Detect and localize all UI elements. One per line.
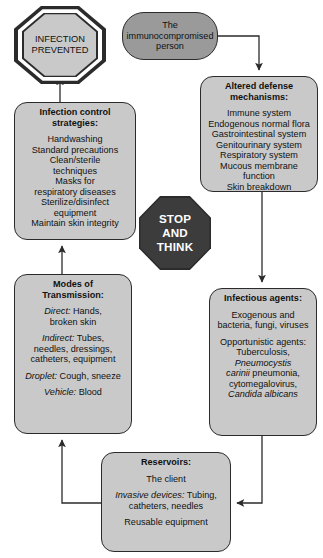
node-stop-and-think[interactable]: STOP AND THINK [137, 194, 213, 272]
reservoirs-header: Reservoirs: [105, 457, 227, 468]
node-infection-prevented[interactable]: INFECTION PREVENTED [14, 6, 106, 84]
stop-line-2: AND [162, 226, 188, 240]
modes-entry-droplet: Droplet: Cough, sneeze [18, 371, 128, 382]
edge-immuno-to-altered [218, 36, 259, 70]
node-infection-control-strategies[interactable]: Infection control strategies: Handwashin… [14, 102, 136, 240]
reservoirs-invasive-text: Tubing, [184, 490, 216, 500]
control-item: equipment [18, 208, 132, 219]
stop-line-1: STOP [159, 212, 191, 226]
node-infectious-agents[interactable]: Infectious agents: Exogenous and bacteri… [209, 288, 317, 436]
control-item: Sterilize/disinfect [18, 197, 132, 208]
modes-label-droplet: Droplet: [25, 371, 57, 381]
reservoirs-client: The client [105, 474, 227, 485]
modes-cont-direct: broken skin [18, 317, 128, 328]
agents-pneumonia: pneumonia, [250, 368, 300, 378]
infection-prevented-label: INFECTION PREVENTED [14, 6, 106, 84]
node-modes-of-transmission[interactable]: Modes of Transmission: Direct: Hands, br… [14, 274, 132, 434]
control-item: Masks for [18, 176, 132, 187]
edge-agents-to-reservoirs [237, 436, 262, 503]
diagram-canvas: INFECTION PREVENTED STOP AND THINK The i… [0, 0, 323, 558]
altered-item: function [204, 171, 314, 182]
agents-pneumocystis: Pneumocystis [213, 358, 313, 369]
control-item: techniques [18, 166, 132, 177]
agents-opportunistic-intro: Opportunistic agents: [213, 337, 313, 348]
control-item: Handwashing [18, 134, 132, 145]
control-item: Standard precautions [18, 145, 132, 156]
altered-item: Genitourinary system [204, 140, 314, 151]
altered-item: Endogenous normal flora [204, 119, 314, 130]
altered-item: Immune system [204, 108, 314, 119]
stop-and-think-label: STOP AND THINK [137, 194, 213, 272]
altered-header-2: mechanisms: [204, 92, 314, 103]
agents-carinii: carinii [226, 368, 250, 378]
reservoirs-invasive-label: Invasive devices: [115, 490, 184, 500]
control-header-1: Infection control [18, 107, 132, 118]
modes-header-1: Modes of [18, 279, 128, 290]
modes-text-vehicle: Blood [76, 387, 102, 397]
control-item: Maintain skin integrity [18, 218, 132, 229]
immuno-line-3: person [127, 41, 214, 52]
modes-entry-direct: Direct: Hands, [18, 306, 128, 317]
altered-item: Gastrointestinal system [204, 129, 314, 140]
infection-prevented-line-1: INFECTION [35, 34, 85, 45]
altered-item: Mucous membrane [204, 161, 314, 172]
control-item: Clean/sterile [18, 155, 132, 166]
agents-cytomegalovirus: cytomegalovirus, [213, 379, 313, 390]
control-header-2: strategies: [18, 118, 132, 129]
modes-label-indirect: Indirect: [42, 333, 74, 343]
agents-opportunistic-item: Tuberculosis, [213, 347, 313, 358]
stop-line-3: THINK [157, 240, 193, 254]
reservoirs-invasive-devices: Invasive devices: Tubing, [105, 490, 227, 501]
reservoirs-reusable: Reusable equipment [105, 517, 227, 528]
modes-entry-indirect: Indirect: Tubes, [18, 333, 128, 344]
modes-entry-vehicle: Vehicle: Blood [18, 387, 128, 398]
modes-cont-indirect: catheters, equipment [18, 354, 128, 365]
edge-reservoirs-to-modes [62, 440, 101, 503]
agents-header: Infectious agents: [213, 293, 313, 304]
modes-text-droplet: Cough, sneeze [57, 371, 121, 381]
altered-header-1: Altered defense [204, 81, 314, 92]
immuno-line-2: immunocompromised [127, 31, 214, 42]
node-altered-defense-mechanisms[interactable]: Altered defense mechanisms: Immune syste… [200, 76, 318, 192]
modes-cont-indirect: needles, dressings, [18, 344, 128, 355]
agents-candida-albicans: Candida albicans [213, 389, 313, 400]
control-item: respiratory diseases [18, 187, 132, 198]
modes-label-direct: Direct: [44, 306, 70, 316]
agents-item: bacteria, fungi, viruses [213, 320, 313, 331]
reservoirs-invasive-cont: catheters, needles [105, 501, 227, 512]
modes-text-indirect: Tubes, [74, 333, 104, 343]
immuno-line-1: The [127, 20, 214, 31]
agents-item: Exogenous and [213, 310, 313, 321]
infection-prevented-line-2: PREVENTED [32, 45, 89, 56]
modes-label-vehicle: Vehicle: [44, 387, 76, 397]
altered-item: Respiratory system [204, 150, 314, 161]
agents-carinii-pneumonia: carinii pneumonia, [213, 368, 313, 379]
altered-item: Skin breakdown [204, 182, 314, 193]
node-immunocompromised-person[interactable]: The immunocompromised person [122, 12, 218, 60]
node-reservoirs[interactable]: Reservoirs: The client Invasive devices:… [101, 452, 231, 552]
immunocompromised-text: The immunocompromised person [127, 20, 214, 52]
modes-header-2: Transmission: [18, 290, 128, 301]
modes-text-direct: Hands, [70, 306, 101, 316]
